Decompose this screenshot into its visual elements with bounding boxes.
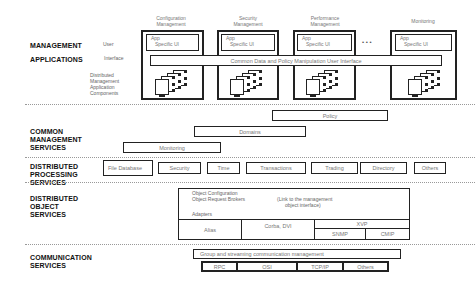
layer-label-processing: DISTRIBUTED PROCESSING SERVICES [30, 163, 78, 187]
monitoring-service[interactable]: Monitoring [123, 142, 221, 153]
time-service[interactable]: Time [207, 162, 240, 174]
app-specific-ui-monitoring[interactable]: App Specific UI [395, 34, 452, 51]
component-stack-icon [408, 70, 442, 98]
more-apps-ellipsis: • • • [362, 39, 372, 45]
app-title-performance: Performance Management [295, 15, 355, 27]
layer-divider [25, 157, 475, 158]
directory-service[interactable]: Directory [360, 162, 407, 174]
layer-label-common: COMMON MANAGEMENT SERVICES [30, 128, 82, 152]
file-database-service[interactable]: File Database [103, 160, 153, 176]
adapters-label: Adapters [192, 211, 212, 217]
corba-dvi-cell[interactable]: Corba, DVI [241, 219, 315, 240]
dist-apps-label: Distributed Management Application Compo… [90, 72, 119, 96]
app-specific-ui-configuration[interactable]: App Specific UI [146, 34, 199, 51]
component-stack-icon [155, 70, 189, 98]
layer-label-applications: APPLICATIONS [30, 56, 83, 64]
layer-label-object: DISTRIBUTED OBJECT SERVICES [30, 195, 78, 219]
layer-divider [25, 244, 475, 245]
app-title-security: Security Management [222, 15, 274, 27]
app-specific-ui-performance[interactable]: App Specific UI [297, 34, 352, 51]
others-service[interactable]: Others [414, 162, 446, 174]
transactions-service[interactable]: Transactions [246, 162, 306, 174]
tcpip-protocol[interactable]: TCP/IP [296, 261, 344, 272]
cmip-cell[interactable]: CMIP [365, 228, 410, 240]
object-interface-note: (Link to the management object interface… [277, 196, 332, 208]
layer-divider [25, 104, 475, 105]
group-communication-bar[interactable]: Group and streaming communication manage… [193, 249, 401, 259]
policy-service[interactable]: Policy [272, 110, 388, 121]
component-stack-icon [230, 70, 264, 98]
security-service[interactable]: Security [158, 162, 201, 174]
snmp-cell[interactable]: SNMP [314, 228, 366, 240]
osi-protocol[interactable]: OSI [236, 261, 298, 272]
component-stack-icon [306, 70, 340, 98]
interface-label: Interface [104, 55, 123, 61]
layer-label-communication: COMMUNICATION SERVICES [30, 254, 92, 270]
layer-divider [25, 182, 475, 183]
trading-service[interactable]: Trading [311, 162, 358, 174]
alias-cell[interactable]: Alias [178, 219, 242, 240]
domains-service[interactable]: Domains [194, 126, 306, 137]
rpc-protocol[interactable]: RPC [201, 261, 238, 272]
layer-label-management: MANAGEMENT [30, 42, 82, 50]
object-config-text: Object Configuration Object Request Brok… [192, 190, 245, 202]
common-ui-bar[interactable]: Common Data and Policy Manipulation User… [150, 55, 442, 66]
app-specific-ui-security[interactable]: App Specific UI [221, 34, 275, 51]
app-title-configuration: Configuration Management [145, 15, 197, 27]
app-title-monitoring: Monitoring [392, 18, 454, 24]
others-protocol[interactable]: Others [342, 261, 389, 272]
user-label: User [103, 41, 114, 47]
